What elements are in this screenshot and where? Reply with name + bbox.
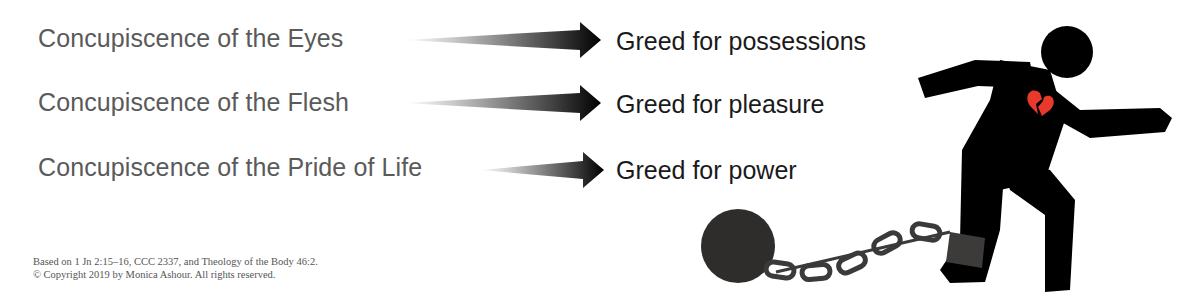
ball-icon	[701, 209, 775, 283]
footnote: Based on 1 Jn 2:15–16, CCC 2337, and The…	[33, 256, 318, 281]
chain-icon	[765, 223, 941, 281]
shackle-icon	[946, 232, 985, 268]
concupiscence-diagram: Concupiscence of the Eyes Concupiscence …	[0, 0, 1197, 301]
footnote-source: Based on 1 Jn 2:15–16, CCC 2337, and The…	[33, 256, 318, 269]
footnote-copyright: © Copyright 2019 by Monica Ashour. All r…	[33, 269, 318, 282]
